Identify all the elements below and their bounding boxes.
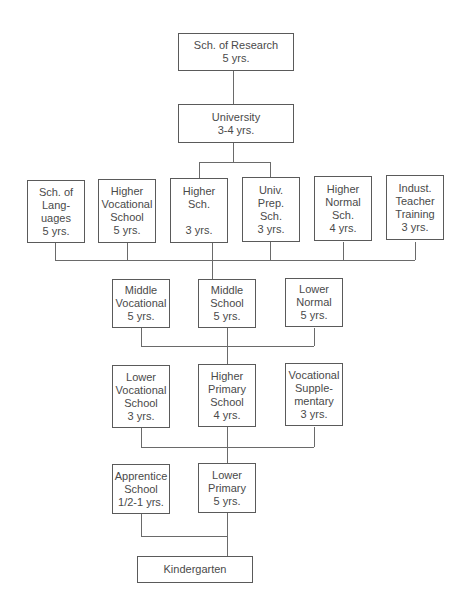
node-duration: 5 yrs. [214, 310, 241, 323]
connector [314, 427, 315, 447]
node-duration: 3 yrs. [402, 221, 429, 234]
node-label: Sch. [260, 210, 282, 223]
connector [227, 513, 228, 556]
connector [55, 242, 56, 260]
node-label: School [124, 483, 158, 496]
node-label: School [110, 211, 144, 224]
node-duration: 5 yrs. [114, 224, 141, 237]
node-duration: 5 yrs. [301, 309, 328, 322]
node-higher-school: Higher Sch. 3 yrs. [170, 178, 228, 243]
node-label: Prep. [258, 197, 284, 210]
node-duration: 3 yrs. [258, 223, 285, 236]
node-label: Higher [183, 185, 215, 198]
node-duration: 5 yrs. [43, 225, 70, 238]
node-label: Lower [299, 283, 329, 296]
node-duration: 3 yrs. [128, 410, 155, 423]
node-label: Training [395, 208, 434, 221]
connector [127, 242, 128, 260]
node-label: Vocational [102, 198, 153, 211]
node-duration: 3 yrs. [301, 408, 328, 421]
node-label: Apprentice [115, 470, 168, 483]
node-lower-primary: Lower Primary 5 yrs. [198, 463, 256, 513]
node-label: Primary [208, 383, 246, 396]
node-duration: 4 yrs. [330, 222, 357, 235]
connector [141, 328, 142, 346]
node-higher-normal-school: Higher Normal Sch. 4 yrs. [314, 176, 372, 241]
node-university-prep-school: Univ. Prep. Sch. 3 yrs. [242, 177, 300, 242]
connector [227, 328, 228, 365]
connector [233, 142, 234, 162]
node-duration: 1/2-1 yrs. [118, 496, 164, 509]
node-label: Higher [211, 370, 243, 383]
connector [199, 162, 200, 178]
node-duration: 5 yrs. [223, 52, 250, 65]
node-label: Sch. of [39, 186, 73, 199]
node-label: Vocational [289, 369, 340, 382]
connector [270, 242, 271, 260]
connector [314, 328, 315, 346]
connector [270, 162, 271, 178]
node-vocational-supplementary: Vocational Supple- mentary 3 yrs. [285, 363, 343, 426]
node-label: Sch. [188, 198, 210, 211]
node-label: uages [41, 212, 71, 225]
node-label: Univ. [259, 184, 283, 197]
node-label: Normal [325, 196, 360, 209]
connector [141, 536, 227, 537]
node-label: Normal [296, 296, 331, 309]
node-label: Lang- [42, 199, 70, 212]
node-higher-primary-school: Higher Primary School 4 yrs. [198, 364, 256, 427]
node-label: Middle [125, 284, 157, 297]
node-duration: 3 yrs. [186, 224, 213, 237]
node-middle-school: Middle School 5 yrs. [198, 279, 256, 328]
node-duration: 5 yrs. [128, 310, 155, 323]
node-label: Middle [211, 284, 243, 297]
node-label: Indust. [398, 182, 431, 195]
node-label: Sch. [332, 209, 354, 222]
connector [199, 162, 270, 163]
node-label: Higher [327, 183, 359, 196]
node-label: Supple- [295, 382, 333, 395]
node-label: Lower [126, 371, 156, 384]
connector [141, 427, 142, 447]
node-higher-vocational-school: Higher Vocational School 5 yrs. [98, 179, 156, 243]
node-duration: 5 yrs. [214, 495, 241, 508]
connector [227, 427, 228, 464]
node-university: University 3-4 yrs. [178, 104, 294, 143]
node-duration: 4 yrs. [214, 409, 241, 422]
node-duration: 3-4 yrs. [218, 124, 255, 137]
node-label: Teacher [395, 195, 434, 208]
node-label: Lower [212, 469, 242, 482]
connector [343, 242, 344, 260]
node-label: School [124, 397, 158, 410]
node-label: School [210, 297, 244, 310]
node-label: Sch. of Research [194, 39, 278, 52]
node-kindergarten: Kindergarten [137, 556, 253, 583]
node-lower-normal: Lower Normal 5 yrs. [285, 278, 343, 327]
node-apprentice-school: Apprentice School 1/2-1 yrs. [112, 464, 170, 514]
connector [212, 242, 213, 279]
node-lower-vocational-school: Lower Vocational School 3 yrs. [112, 365, 170, 428]
node-label: mentary [294, 395, 334, 408]
node-school-of-languages: Sch. of Lang- uages 5 yrs. [27, 180, 85, 243]
node-label: School [210, 396, 244, 409]
node-industrial-teacher-training: Indust. Teacher Training 3 yrs. [386, 175, 444, 240]
node-label: Higher [111, 185, 143, 198]
connector [55, 260, 415, 261]
node-middle-vocational: Middle Vocational 5 yrs. [112, 279, 170, 328]
connector [233, 70, 234, 104]
node-label: Kindergarten [164, 563, 227, 576]
node-school-of-research: Sch. of Research 5 yrs. [178, 33, 294, 71]
node-label: Primary [208, 482, 246, 495]
node-label: University [212, 111, 260, 124]
node-label: Vocational [116, 384, 167, 397]
connector [141, 513, 142, 536]
node-label: Vocational [116, 297, 167, 310]
connector [415, 242, 416, 260]
